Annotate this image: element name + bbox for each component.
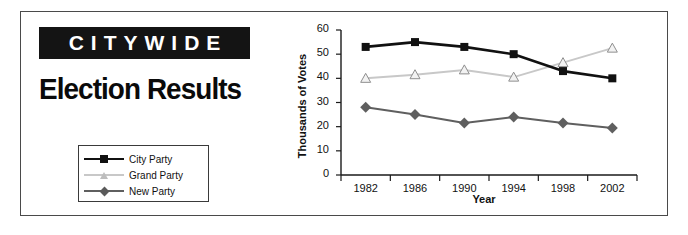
legend-swatch-new-party	[84, 184, 124, 198]
legend-item-city-party: City Party	[84, 151, 208, 167]
data-point-square	[460, 43, 468, 51]
data-point-diamond	[508, 112, 519, 123]
data-point-diamond	[558, 118, 569, 129]
line-chart: Thousands of Votes Year 0102030405060 19…	[279, 12, 667, 215]
data-point-diamond	[459, 118, 470, 129]
kicker-label: CITYWIDE	[39, 27, 250, 59]
chart-legend: City Party Grand Party New Party	[78, 145, 209, 202]
page-title: Election Results	[39, 72, 251, 106]
diamond-marker-icon	[100, 187, 110, 197]
legend-item-new-party: New Party	[84, 183, 208, 199]
legend-item-grand-party: Grand Party	[84, 167, 208, 183]
data-point-triangle	[607, 43, 617, 52]
legend-label-grand-party: Grand Party	[129, 170, 183, 181]
data-point-diamond	[410, 109, 421, 120]
data-point-square	[362, 43, 370, 51]
legend-swatch-grand-party	[84, 168, 124, 182]
legend-swatch-city-party	[84, 152, 124, 166]
article-header-panel: CITYWIDE Election Results City Party Gra…	[21, 12, 279, 215]
data-point-diamond	[360, 102, 371, 113]
data-point-square	[559, 67, 567, 75]
data-point-square	[608, 74, 616, 82]
legend-label-city-party: City Party	[129, 154, 172, 165]
infographic-panel: CITYWIDE Election Results City Party Gra…	[20, 11, 668, 216]
plot-area	[279, 12, 667, 215]
series-line-new-party	[366, 107, 613, 128]
data-point-square	[411, 38, 419, 46]
data-point-diamond	[607, 122, 618, 133]
kicker-banner: CITYWIDE	[39, 27, 250, 59]
legend-label-new-party: New Party	[129, 186, 175, 197]
data-point-square	[510, 50, 518, 58]
square-marker-icon	[100, 155, 108, 163]
triangle-marker-icon	[100, 172, 108, 179]
